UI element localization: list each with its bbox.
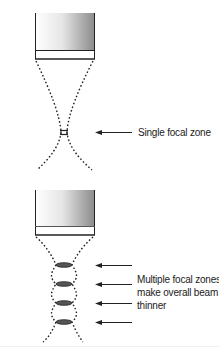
label-line-3: thinner — [137, 299, 219, 312]
focal-zone-2 — [56, 282, 72, 287]
multiple-focal-zones-label: Multiple focal zones make overall beam t… — [137, 273, 219, 312]
top-transducer — [35, 13, 95, 59]
focal-zone-4 — [56, 320, 72, 325]
focal-zone-3 — [56, 301, 72, 306]
label-line-2: make overall beam — [137, 286, 219, 299]
bottom-beam-outline — [36, 237, 93, 342]
arrow-icon-2 — [95, 282, 132, 287]
bottom-transducer — [35, 190, 95, 235]
top-beam-outline — [36, 61, 93, 170]
single-focal-zone-marker — [60, 130, 68, 135]
bottom-arrows — [95, 263, 132, 325]
arrow-icon-1 — [95, 263, 132, 268]
single-focal-zone-label: Single focal zone — [138, 126, 211, 139]
multiple-focal-zone-markers — [56, 263, 72, 325]
top-arrow-icon — [95, 130, 132, 135]
arrow-icon-4 — [95, 320, 132, 325]
label-line-1: Multiple focal zones — [137, 273, 219, 286]
focal-zone-1 — [56, 263, 72, 268]
arrow-icon-3 — [95, 301, 132, 306]
bottom-divider — [0, 346, 219, 347]
